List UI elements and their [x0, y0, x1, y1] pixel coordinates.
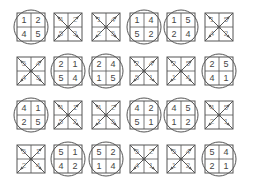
cell-number: 4 [219, 145, 233, 159]
cell-number: 5 [181, 101, 195, 115]
cell-number: 2 [68, 159, 82, 173]
circled-square-symbol: 4512 [167, 101, 195, 129]
cell-number: 4 [181, 27, 195, 41]
cell-number: 2 [54, 57, 68, 71]
cell-number: 1 [92, 71, 106, 85]
cell-number: 4 [54, 101, 68, 115]
cell-number: 5 [106, 71, 120, 85]
crossed-square-symbol: 5124 [17, 145, 45, 173]
cell-number: 2 [205, 115, 219, 129]
cell-number: 4 [181, 71, 195, 85]
cell-number: 2 [219, 27, 233, 41]
cell-number: 5 [17, 57, 31, 71]
circled-square-symbol: 5214 [92, 145, 120, 173]
crossed-square-symbol: 4521 [205, 101, 233, 129]
cell-number: 2 [167, 57, 181, 71]
cell-number: 5 [92, 145, 106, 159]
crossed-square-symbol: 1542 [205, 13, 233, 41]
cell-number: 1 [92, 13, 106, 27]
cell-number: 2 [92, 27, 106, 41]
cell-number: 5 [219, 13, 233, 27]
cell-number: 5 [106, 27, 120, 41]
crossed-square-symbol: 2451 [130, 57, 158, 85]
cell-number: 1 [144, 115, 158, 129]
cell-number: 1 [17, 13, 31, 27]
circled-square-symbol: 2415 [92, 57, 120, 85]
cell-number: 5 [54, 115, 68, 129]
cell-number: 5 [54, 27, 68, 41]
cell-number: 2 [68, 13, 82, 27]
cell-number: 4 [167, 101, 181, 115]
cell-number: 4 [68, 71, 82, 85]
circled-square-symbol: 4125 [17, 101, 45, 129]
cell-number: 4 [130, 101, 144, 115]
cell-number: 2 [106, 145, 120, 159]
cell-number: 1 [68, 145, 82, 159]
cell-number: 1 [92, 115, 106, 129]
cell-number: 5 [130, 71, 144, 85]
cell-number: 4 [31, 159, 45, 173]
cell-number: 2 [144, 101, 158, 115]
cell-number: 2 [205, 57, 219, 71]
cell-number: 5 [54, 71, 68, 85]
cell-number: 4 [17, 27, 31, 41]
crossed-square-symbol: 4253 [54, 13, 82, 41]
cell-number: 5 [167, 145, 181, 159]
cell-number: 2 [130, 57, 144, 71]
circled-square-symbol: 1524 [167, 13, 195, 41]
cell-number: 5 [205, 145, 219, 159]
cell-number: 4 [92, 101, 106, 115]
cell-number: 5 [31, 115, 45, 129]
cell-number: 4 [54, 13, 68, 27]
cell-number: 3 [68, 27, 82, 41]
crossed-square-symbol: 4215 [92, 101, 120, 129]
circled-square-symbol: 5142 [54, 145, 82, 173]
crossed-square-symbol: 4152 [54, 101, 82, 129]
cell-number: 5 [130, 115, 144, 129]
cell-number: 4 [181, 145, 195, 159]
cell-number: 1 [68, 101, 82, 115]
cell-number: 5 [106, 115, 120, 129]
cell-number: 1 [130, 13, 144, 27]
cell-number: 4 [106, 57, 120, 71]
cell-number: 2 [106, 101, 120, 115]
cell-number: 1 [144, 71, 158, 85]
crossed-square-symbol: 5412 [167, 145, 195, 173]
symbol-grid: 1245425314251452152415425445215424152451… [0, 0, 260, 186]
cell-number: 4 [205, 71, 219, 85]
cell-number: 2 [144, 27, 158, 41]
cell-number: 1 [167, 71, 181, 85]
cell-number: 1 [144, 159, 158, 173]
crossed-square-symbol: 1425 [92, 13, 120, 41]
crossed-square-symbol: 2514 [167, 57, 195, 85]
cell-number: 1 [31, 101, 45, 115]
cell-number: 2 [17, 115, 31, 129]
crossed-square-symbol: 5445 [17, 57, 45, 85]
cell-number: 4 [106, 159, 120, 173]
cell-number: 5 [219, 101, 233, 115]
cell-number: 2 [68, 115, 82, 129]
cell-number: 4 [54, 159, 68, 173]
cell-number: 5 [219, 57, 233, 71]
circled-square-symbol: 2154 [54, 57, 82, 85]
cell-number: 4 [17, 101, 31, 115]
cell-number: 4 [205, 27, 219, 41]
cell-number: 1 [92, 159, 106, 173]
cell-number: 1 [219, 115, 233, 129]
circled-square-symbol: 1452 [130, 13, 158, 41]
cell-number: 5 [17, 145, 31, 159]
cell-number: 2 [92, 57, 106, 71]
cell-number: 1 [167, 159, 181, 173]
cell-number: 1 [167, 13, 181, 27]
cell-number: 2 [181, 115, 195, 129]
cell-number: 4 [17, 71, 31, 85]
cell-number: 1 [219, 159, 233, 173]
cell-number: 5 [181, 57, 195, 71]
cell-number: 2 [181, 159, 195, 173]
cell-number: 4 [144, 13, 158, 27]
circled-square-symbol: 1245 [17, 13, 45, 41]
cell-number: 4 [205, 101, 219, 115]
circled-square-symbol: 5421 [205, 145, 233, 173]
cell-number: 1 [205, 13, 219, 27]
cell-number: 4 [144, 57, 158, 71]
